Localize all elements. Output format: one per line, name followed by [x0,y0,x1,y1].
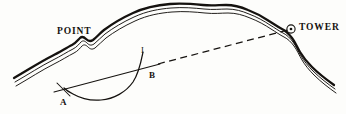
label-tower: TOWER [299,22,340,32]
surveying-diagram: POINT TOWER A B I [0,0,346,114]
coastline-outer-line [14,4,334,85]
label-point: POINT [57,26,92,36]
sight-line-solid-a-to-b [54,64,160,92]
position-arc-curve [64,52,143,100]
diagram-canvas [0,0,346,114]
tower-station-marker-icon [287,25,295,33]
sight-line-dashed-b-to-tower [158,30,288,64]
label-curve-i: I [141,45,144,55]
coastline-inner-line [16,12,336,93]
coastline-middle-line [15,8,335,89]
coastline-group [14,4,336,93]
tick-mark-station-a [57,83,70,96]
label-station-b: B [149,70,155,80]
label-station-a: A [60,97,67,107]
